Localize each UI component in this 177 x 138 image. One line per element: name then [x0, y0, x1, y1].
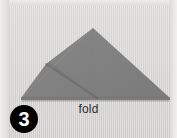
step-number-text: 3	[18, 109, 29, 129]
base-shadow	[21, 98, 170, 101]
step-number-badge: 3	[10, 105, 38, 133]
origami-step-figure: fold 3	[0, 0, 177, 138]
